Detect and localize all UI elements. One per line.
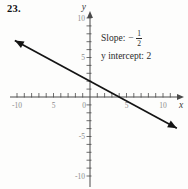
textbook-figure: 23. -1050510105-5-10xy Slope: − 12 y int… bbox=[0, 0, 188, 189]
slope-sign: − bbox=[128, 33, 133, 44]
y-tick-label: 5 bbox=[81, 53, 85, 62]
y-axis-label: y bbox=[81, 2, 87, 12]
slope-label: Slope: bbox=[101, 33, 125, 44]
fraction-numerator: 1 bbox=[136, 30, 143, 39]
x-tick-label: -10 bbox=[12, 101, 22, 110]
x-axis-label: x bbox=[178, 100, 184, 110]
graph-annotation: Slope: − 12 y intercept: 2 bbox=[101, 30, 151, 62]
intercept-label: y intercept: bbox=[101, 51, 144, 61]
intercept-value: 2 bbox=[146, 51, 151, 61]
line-arrow-right-icon bbox=[167, 121, 179, 132]
y-axis-arrow-icon bbox=[87, 11, 93, 18]
x-tick-label: 5 bbox=[52, 101, 56, 110]
line-arrow-left-icon bbox=[13, 37, 25, 48]
intercept-annotation: y intercept: 2 bbox=[101, 51, 151, 62]
slope-annotation: Slope: − 12 bbox=[101, 30, 151, 47]
y-tick-label: 10 bbox=[78, 14, 86, 23]
plotted-line bbox=[15, 41, 177, 129]
coordinate-graph: -1050510105-5-10xy bbox=[0, 0, 188, 189]
x-tick-label: 0 bbox=[82, 101, 86, 110]
slope-fraction: 12 bbox=[136, 30, 143, 48]
y-tick-label: -5 bbox=[79, 132, 85, 141]
x-tick-label: 10 bbox=[159, 101, 167, 110]
fraction-denominator: 2 bbox=[137, 39, 141, 47]
y-tick-label: -10 bbox=[75, 172, 85, 181]
